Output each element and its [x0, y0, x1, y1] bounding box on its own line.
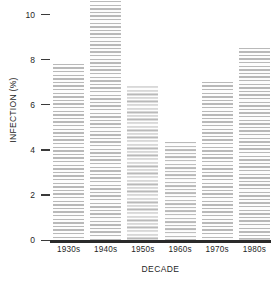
bar-1960s: [165, 142, 196, 240]
y-tick-label: 4: [30, 144, 35, 156]
y-tick-mark: [41, 240, 50, 241]
y-tick-10: 10: [0, 9, 50, 21]
y-tick-mark: [41, 104, 50, 105]
y-tick-mark: [41, 149, 50, 150]
x-tick-label-1930s: 1930s: [50, 245, 87, 254]
x-tick-label-1970s: 1970s: [199, 245, 236, 254]
y-tick-label: 2: [30, 189, 35, 201]
y-tick-mark: [41, 194, 50, 195]
y-tick-label: 8: [30, 54, 35, 66]
bar-1980s: [239, 48, 270, 240]
y-tick-label: 6: [30, 99, 35, 111]
bar-1930s: [53, 64, 84, 240]
x-tick-label-1960s: 1960s: [162, 245, 199, 254]
x-axis-title: DECADE: [50, 264, 271, 274]
y-tick-2: 2: [0, 189, 50, 201]
y-tick-0: 0: [0, 234, 50, 246]
x-tick-label-1940s: 1940s: [87, 245, 124, 254]
y-tick-mark: [41, 59, 50, 60]
y-tick-mark: [41, 14, 50, 15]
bar-1940s: [90, 1, 121, 240]
plot-area: [50, 0, 273, 240]
y-tick-label: 0: [30, 234, 35, 246]
bar-1950s: [127, 86, 158, 240]
y-tick-6: 6: [0, 99, 50, 111]
x-axis-line: [50, 240, 271, 243]
y-tick-8: 8: [0, 54, 50, 66]
y-tick-4: 4: [0, 144, 50, 156]
bar-1970s: [202, 82, 233, 240]
x-tick-label-1980s: 1980s: [236, 245, 273, 254]
y-tick-label: 10: [26, 9, 35, 21]
bar-chart: INFECTION (%) 0246810 1930s1940s1950s196…: [0, 0, 273, 283]
x-tick-label-1950s: 1950s: [124, 245, 161, 254]
